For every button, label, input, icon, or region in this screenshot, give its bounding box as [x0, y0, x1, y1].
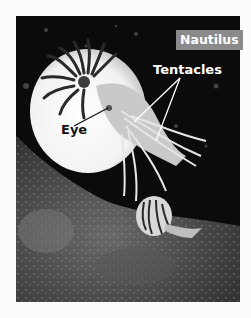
eye-label: Eye — [61, 123, 87, 137]
nautilus-photo — [16, 16, 240, 302]
nautilus-illustration — [16, 16, 240, 302]
title-badge: Nautilus — [176, 30, 243, 50]
tentacles-label: Tentacles — [153, 63, 222, 77]
